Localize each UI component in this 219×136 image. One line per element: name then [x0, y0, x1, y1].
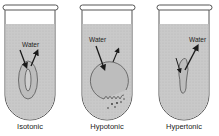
osmosis-diagram [0, 0, 219, 136]
water-label-isotonic: Water [22, 41, 39, 48]
test-tube-isotonic [3, 5, 58, 120]
test-tube-hypertonic [157, 5, 212, 120]
label-hypotonic: Hypotonic [77, 122, 137, 131]
water-label-hypotonic: Water [89, 36, 106, 43]
test-tube-hypotonic [80, 5, 135, 120]
water-label-hypertonic: Water [189, 36, 206, 43]
label-isotonic: Isotonic [0, 122, 60, 131]
label-hypertonic: Hypertonic [154, 122, 214, 131]
isotonic-cell [19, 61, 38, 99]
